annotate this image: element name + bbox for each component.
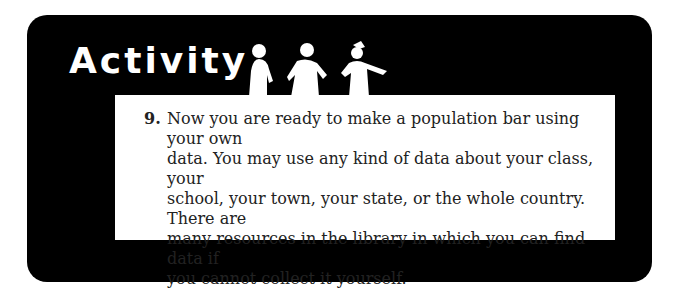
activity-frame: Activity 9. Now you are ready to make a …	[27, 15, 652, 282]
item-number: 9.	[144, 109, 161, 129]
item-text: Now you are ready to make a population b…	[167, 109, 604, 289]
activity-panel: 9. Now you are ready to make a populatio…	[115, 95, 615, 240]
activity-title: Activity	[69, 39, 248, 83]
silhouette-figures-icon	[237, 41, 397, 97]
activity-item: 9. Now you are ready to make a populatio…	[144, 109, 604, 289]
